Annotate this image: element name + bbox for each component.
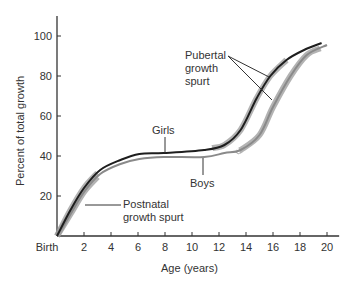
- boys-label: Boys: [190, 177, 215, 189]
- x-tick-label: 10: [186, 241, 198, 253]
- pubertal-label-line2: growth: [185, 62, 218, 74]
- x-tick-label: 8: [162, 241, 168, 253]
- x-tick-label: Birth: [36, 241, 59, 253]
- y-tick-label: 20: [40, 190, 52, 202]
- pubertal-leader-girls: [228, 56, 269, 77]
- x-tick-label: 14: [240, 241, 252, 253]
- x-tick-label: 2: [81, 241, 87, 253]
- y-tick-label: 80: [40, 70, 52, 82]
- postnatal-label-line1: Postnatal: [123, 198, 169, 210]
- pubertal-label-line3: spurt: [185, 75, 209, 87]
- y-tick-label: 100: [34, 30, 52, 42]
- annotations: Girls Boys Pubertal growth spurt Postnat…: [85, 49, 272, 223]
- x-axis-title: Age (years): [161, 262, 218, 274]
- x-tick-label: 4: [108, 241, 114, 253]
- x-tick-label: 20: [321, 241, 333, 253]
- x-tick-label: 16: [267, 241, 279, 253]
- y-axis-title: Percent of total growth: [14, 76, 26, 186]
- girls-label: Girls: [152, 124, 175, 136]
- x-tick-label: 6: [135, 241, 141, 253]
- growth-chart: 20406080100Birth2468101214161820 Girls B…: [0, 0, 361, 282]
- x-tick-label: 18: [294, 241, 306, 253]
- postnatal-label-line2: growth spurt: [123, 211, 184, 223]
- y-tick-label: 40: [40, 150, 52, 162]
- pubertal-label-line1: Pubertal: [185, 49, 226, 61]
- y-tick-label: 60: [40, 110, 52, 122]
- x-tick-label: 12: [213, 241, 225, 253]
